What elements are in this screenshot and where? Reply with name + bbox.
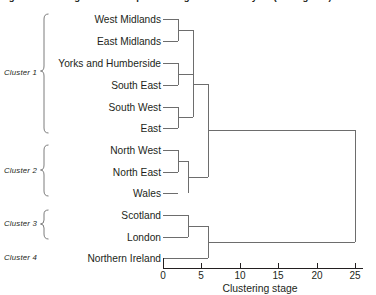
cluster-bracket-1 xyxy=(41,14,49,133)
cluster-brackets xyxy=(41,14,49,239)
axis-tick-label-20: 20 xyxy=(307,270,327,281)
axis-tick-label-0: 0 xyxy=(153,270,173,281)
axis-tick-label-5: 5 xyxy=(191,270,211,281)
axis-tick-label-15: 15 xyxy=(268,270,288,281)
cluster-bracket-3 xyxy=(41,210,49,239)
axis-tick-label-25: 25 xyxy=(345,270,365,281)
axis-title-clustering-stage: Clustering stage xyxy=(205,283,315,294)
dendrogram-canvas xyxy=(0,0,376,295)
dendrogram-figure: Figure 5 Dendrogram for complete linkage… xyxy=(0,0,376,295)
dendrogram-tree xyxy=(163,19,355,258)
cluster-bracket-2 xyxy=(41,145,49,196)
axis-tick-label-10: 10 xyxy=(230,270,250,281)
x-axis xyxy=(163,258,363,268)
